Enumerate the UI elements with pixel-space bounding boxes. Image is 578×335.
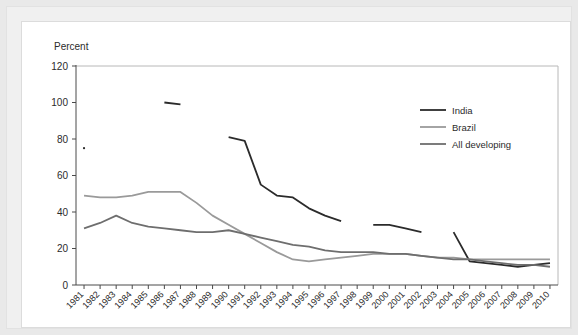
legend-label: Brazil: [452, 122, 476, 133]
screenshot-root: Percent020406080100120198119821983198419…: [0, 0, 578, 335]
x-tick-label: 2007: [482, 289, 503, 310]
x-tick-label: 1981: [64, 289, 85, 310]
x-tick-label: 1999: [353, 289, 374, 310]
y-tick-label: 40: [57, 207, 69, 218]
legend-label: India: [452, 105, 473, 116]
x-tick-label: 1993: [257, 289, 278, 310]
x-tick-label: 2006: [466, 289, 487, 310]
x-tick-label: 1985: [128, 289, 149, 310]
x-tick-label: 1987: [161, 289, 182, 310]
x-tick-label: 1984: [112, 289, 133, 310]
x-tick-label: 2004: [434, 289, 455, 310]
line-chart: Percent020406080100120198119821983198419…: [22, 22, 571, 328]
chart-card: Percent020406080100120198119821983198419…: [21, 21, 571, 328]
y-tick-label: 120: [51, 61, 68, 72]
y-tick-label: 60: [57, 170, 69, 181]
outer-frame: Percent020406080100120198119821983198419…: [6, 6, 572, 329]
x-tick-label: 2003: [418, 289, 439, 310]
x-tick-label: 1991: [225, 289, 246, 310]
plot-area: [76, 66, 558, 285]
x-tick-label: 2010: [530, 289, 551, 310]
legend-label: All developing: [452, 139, 511, 150]
x-tick-label: 1996: [305, 289, 326, 310]
x-tick-label: 2000: [369, 289, 390, 310]
x-tick-label: 1983: [96, 289, 117, 310]
x-tick-label: 1988: [177, 289, 198, 310]
x-tick-label: 2009: [514, 289, 535, 310]
x-tick-label: 1997: [321, 289, 342, 310]
x-tick-label: 2001: [386, 289, 407, 310]
x-tick-label: 2005: [450, 289, 471, 310]
x-tick-label: 1994: [273, 289, 294, 310]
y-tick-label: 0: [62, 280, 68, 291]
y-tick-label: 100: [51, 97, 68, 108]
y-axis-title: Percent: [54, 41, 89, 52]
x-tick-label: 1998: [337, 289, 358, 310]
x-tick-label: 2002: [402, 289, 423, 310]
x-tick-label: 1992: [241, 289, 262, 310]
x-tick-label: 1982: [80, 289, 101, 310]
x-tick-label: 2008: [498, 289, 519, 310]
x-tick-label: 1986: [145, 289, 166, 310]
y-tick-label: 80: [57, 134, 69, 145]
x-tick-label: 1989: [193, 289, 214, 310]
x-tick-label: 1990: [209, 289, 230, 310]
y-tick-label: 20: [57, 243, 69, 254]
series-point-marker: [83, 147, 85, 149]
x-tick-label: 1995: [289, 289, 310, 310]
